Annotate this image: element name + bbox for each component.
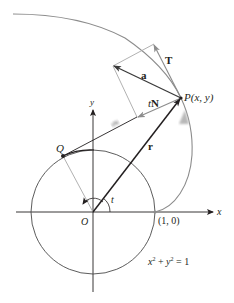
svg-text:tN: tN	[110, 118, 120, 128]
label-p: P(x, y)	[183, 91, 214, 104]
point-q	[61, 154, 65, 158]
parallelogram-left-edge	[113, 66, 137, 117]
angle-t-small-arc	[103, 198, 110, 212]
vector-a	[114, 66, 181, 98]
vector-tn	[138, 98, 181, 117]
involute-diagram: y x O (1, 0) t Q P(x, y) r T a tN tN x2 …	[0, 0, 234, 303]
label-circle-equation: x2 + y2 = 1	[147, 256, 189, 267]
label-y-axis: y	[89, 97, 94, 107]
label-r: r	[148, 140, 153, 152]
involute-curve	[13, 14, 192, 212]
point-one-zero	[153, 210, 156, 213]
label-q: Q	[56, 142, 64, 154]
point-p	[179, 96, 182, 99]
radius-oq-line	[63, 156, 93, 212]
label-angle-t: t	[111, 194, 114, 205]
label-a-vector: a	[141, 69, 147, 81]
label-t-vector: T	[165, 54, 173, 66]
label-origin: O	[81, 216, 88, 227]
label-one-zero: (1, 0)	[158, 215, 180, 227]
label-tn: tN	[148, 97, 159, 109]
vector-t	[154, 45, 181, 98]
segment-qp-mark: tN	[110, 118, 120, 128]
label-tn-vector: N	[151, 97, 159, 109]
label-x-axis: x	[216, 206, 222, 217]
